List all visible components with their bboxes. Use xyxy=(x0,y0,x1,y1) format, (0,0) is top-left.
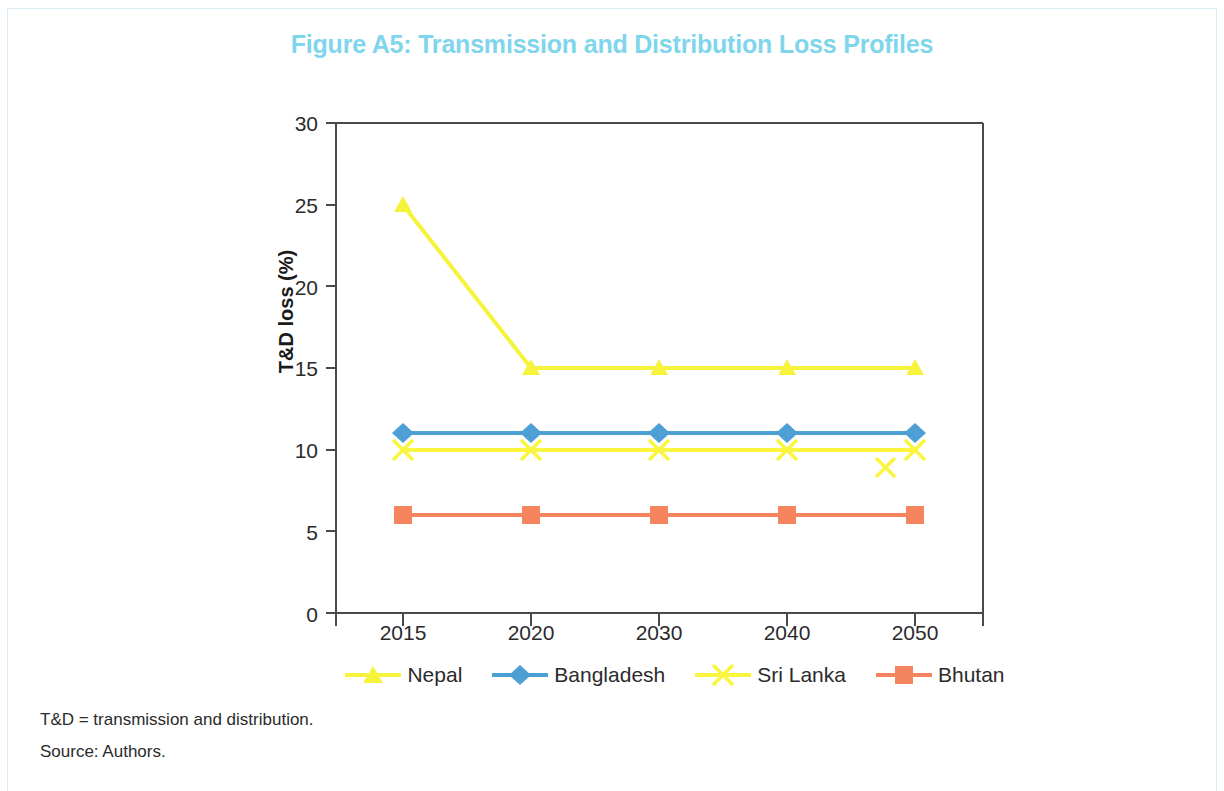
line-chart: T&D loss (%) 0 5 10 15 20 25 30 2015 202… xyxy=(0,0,1224,791)
series-nepal xyxy=(394,196,924,375)
legend-label-nepal: Nepal xyxy=(407,663,462,687)
legend-label-bhutan: Bhutan xyxy=(938,663,1005,687)
series-sri-lanka xyxy=(393,440,925,477)
legend-label-sri-lanka: Sri Lanka xyxy=(757,663,846,687)
footnote-abbreviation: T&D = transmission and distribution. xyxy=(40,710,314,730)
x-tick-marks xyxy=(336,613,983,626)
legend-item-nepal[interactable]: Nepal xyxy=(345,663,462,687)
series-bhutan xyxy=(394,506,924,524)
legend-marker-diamond-icon xyxy=(492,664,548,686)
legend-item-sri-lanka[interactable]: Sri Lanka xyxy=(695,663,846,687)
figure-page: Figure A5: Transmission and Distribution… xyxy=(0,0,1224,791)
legend-item-bangladesh[interactable]: Bangladesh xyxy=(492,663,665,687)
legend-marker-triangle-icon xyxy=(345,664,401,686)
chart-legend: Nepal Bangladesh Sri Lanka xyxy=(330,658,1020,692)
legend-item-bhutan[interactable]: Bhutan xyxy=(876,663,1005,687)
y-tick-marks xyxy=(326,123,336,613)
legend-label-bangladesh: Bangladesh xyxy=(554,663,665,687)
legend-marker-x-icon xyxy=(695,664,751,686)
legend-marker-square-icon xyxy=(876,664,932,686)
stray-x-marker xyxy=(876,458,895,477)
series-bangladesh xyxy=(392,423,926,443)
footnote-source: Source: Authors. xyxy=(40,742,166,762)
